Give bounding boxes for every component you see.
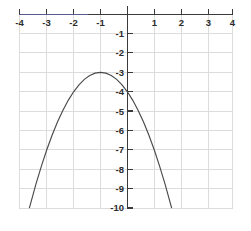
x-tick-label-neg3: -3 [42, 17, 50, 28]
x-tick-label-neg2: -2 [69, 17, 77, 28]
coordinate-plane-svg: -4 -3 -2 -1 1 2 3 4 -1 -2 -3 -4 -5 -6 -7… [0, 0, 251, 231]
x-tick-label-4: 4 [230, 17, 236, 28]
x-tick-label-neg4: -4 [15, 17, 24, 28]
chart-background [0, 0, 251, 231]
y-tick-label-neg6: -6 [116, 125, 124, 136]
y-tick-label-neg2: -2 [116, 47, 124, 58]
parabola-graph-figure: -4 -3 -2 -1 1 2 3 4 -1 -2 -3 -4 -5 -6 -7… [0, 0, 251, 231]
y-tick-label-neg1: -1 [116, 28, 125, 39]
y-tick-label-neg5: -5 [116, 106, 125, 117]
x-tick-label-neg1: -1 [96, 17, 105, 28]
x-tick-label-3: 3 [206, 17, 211, 28]
y-tick-label-neg9: -9 [116, 183, 124, 194]
y-tick-label-neg3: -3 [116, 67, 124, 78]
y-tick-label-neg7: -7 [116, 144, 124, 155]
y-tick-label-neg8: -8 [116, 164, 124, 175]
x-tick-label-2: 2 [179, 17, 184, 28]
y-tick-label-neg4: -4 [116, 86, 125, 97]
x-tick-label-1: 1 [152, 17, 158, 28]
y-tick-label-neg10: -10 [110, 202, 124, 213]
